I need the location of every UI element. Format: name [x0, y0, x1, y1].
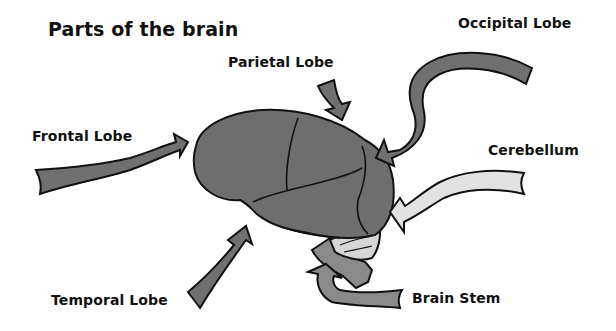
- label-temporal-lobe: Temporal Lobe: [51, 292, 168, 308]
- diagram-title: Parts of the brain: [48, 18, 238, 40]
- brain-illustration: [0, 0, 616, 331]
- label-cerebellum: Cerebellum: [488, 142, 579, 158]
- label-brain-stem: Brain Stem: [412, 290, 501, 306]
- temporal-arrow: [188, 226, 252, 308]
- label-frontal-lobe: Frontal Lobe: [32, 128, 132, 144]
- label-parietal-lobe: Parietal Lobe: [228, 54, 334, 70]
- brain-diagram: Parts of the brain Parietal Lobe Occipit…: [0, 0, 616, 331]
- parietal-arrow: [318, 80, 350, 120]
- label-occipital-lobe: Occipital Lobe: [458, 15, 571, 31]
- cerebellum-arrow: [390, 171, 524, 232]
